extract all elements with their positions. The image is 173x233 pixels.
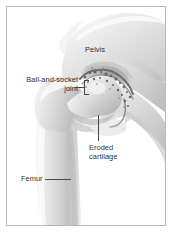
label-ball-and-socket-joint: Ball-and-socket joint: [12, 76, 78, 93]
leader-femur: [45, 179, 71, 180]
label-pelvis: Pelvis: [85, 46, 105, 55]
label-eroded-cartilage: Eroded cartilage: [89, 144, 137, 161]
hip-joint-anatomical-drawing: [7, 7, 166, 226]
leader-ball-and-socket-bracket-bottom: [84, 94, 89, 95]
leader-eroded-cartilage: [98, 115, 99, 141]
illustration-page: Pelvis Ball-and-socket joint Eroded cart…: [0, 0, 173, 233]
illustration-frame: Pelvis Ball-and-socket joint Eroded cart…: [6, 6, 166, 226]
label-femur: Femur: [21, 175, 43, 184]
leader-ball-and-socket-bracket-top: [84, 80, 89, 81]
leader-ball-and-socket-bracket: [84, 80, 85, 95]
